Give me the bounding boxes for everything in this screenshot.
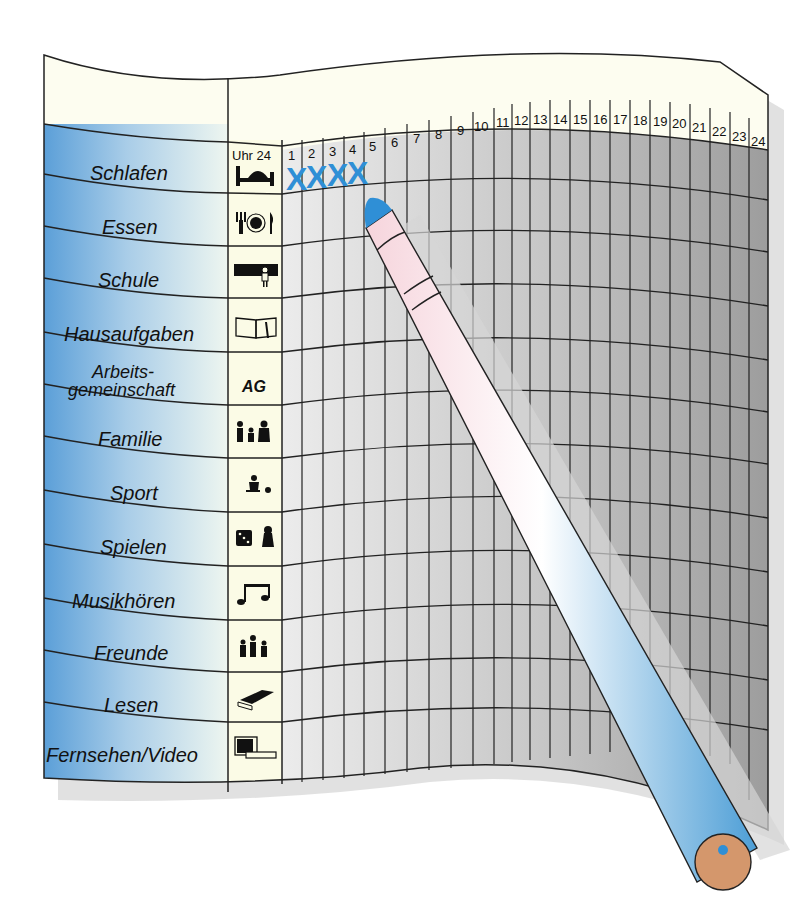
row-label-spielen: Spielen (100, 536, 167, 558)
activity-chart-illustration: Uhr 24 1 2 3 4 5 6 7 8 9 10 11 12 13 14 … (0, 0, 806, 918)
hour-label: 20 (672, 116, 686, 131)
row-label-essen: Essen (102, 216, 158, 238)
hour-label: 5 (369, 139, 376, 154)
mark-hour-2: X (306, 159, 328, 195)
row-label-schule: Schule (98, 269, 159, 291)
row-label-arbeitsgemeinschaft-line1: Arbeits- (91, 362, 154, 382)
hour-label: 24 (751, 134, 765, 149)
hour-label: 19 (653, 114, 667, 129)
hour-label: 17 (613, 112, 627, 127)
icon-column (228, 140, 282, 810)
ag-text-icon: AG (241, 378, 266, 395)
hour-label: 18 (633, 113, 647, 128)
row-label-schlafen: Schlafen (90, 162, 168, 184)
pen-end-cap (695, 834, 751, 890)
mark-hour-4: X (347, 155, 369, 191)
hour-label: 9 (457, 123, 464, 138)
hour-label: 7 (413, 131, 420, 146)
hour-label: 11 (496, 115, 510, 130)
hour-label: 16 (593, 112, 607, 127)
hour-label: 22 (712, 124, 726, 139)
pen-end-dot (718, 845, 728, 855)
hour-label: 12 (514, 113, 528, 128)
hour-label: 6 (391, 135, 398, 150)
hour-label: 8 (435, 127, 442, 142)
row-label-freunde: Freunde (94, 642, 169, 664)
row-label-arbeitsgemeinschaft-line2: gemeinschaft (68, 380, 176, 400)
hour-label: 13 (533, 112, 547, 127)
row-label-hausaufgaben: Hausaufgaben (64, 323, 194, 345)
row-label-familie: Familie (98, 428, 162, 450)
row-label-fernsehen-video: Fernsehen/Video (46, 744, 198, 766)
hour-label: 23 (732, 129, 746, 144)
row-label-sport: Sport (110, 482, 159, 504)
row-label-lesen: Lesen (104, 694, 159, 716)
mark-hour-1: X (286, 161, 308, 197)
row-label-musikhoeren: Musikhören (72, 590, 175, 612)
hour-label: 14 (553, 112, 567, 127)
hour-label: 10 (474, 119, 488, 134)
schlafen-marks: X X X X (286, 155, 369, 197)
hour-label: 21 (692, 120, 706, 135)
uhr-label: Uhr 24 (232, 148, 271, 163)
hour-label: 15 (573, 112, 587, 127)
mark-hour-3: X (327, 157, 349, 193)
